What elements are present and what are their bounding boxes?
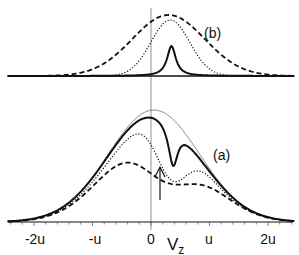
panel-b-label: (b) xyxy=(204,26,221,40)
x-tick-label: 0 xyxy=(147,232,155,246)
x-tick-label: -2u xyxy=(25,232,45,246)
x-tick-label: -u xyxy=(89,232,101,246)
x-axis-label-sub: z xyxy=(178,243,184,255)
x-axis-label-main: V xyxy=(167,235,178,254)
x-axis-ticks xyxy=(11,222,292,226)
x-axis-label: Vz xyxy=(167,236,184,253)
x-tick-label: 2u xyxy=(260,232,276,246)
figure-plot xyxy=(0,0,299,255)
up-arrow-icon xyxy=(155,167,165,200)
x-tick-label: u xyxy=(205,232,213,246)
panel-a-label: (a) xyxy=(213,148,230,162)
